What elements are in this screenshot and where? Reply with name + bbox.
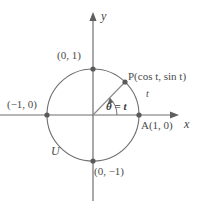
label-x-axis: x (184, 118, 189, 130)
label-angle-theta: θ = t (106, 101, 127, 112)
label-point-left: (−1, 0) (7, 99, 37, 110)
point-marker-top (90, 66, 95, 71)
label-point-a: A(1, 0) (141, 120, 173, 131)
point-marker-bottom (90, 158, 95, 163)
unit-circle-figure: P(cos t, sin t) A(1, 0) (0, 1) (0, −1) (… (0, 0, 198, 201)
point-marker-right (136, 112, 141, 117)
label-y-axis: y (101, 10, 106, 22)
point-marker-left (44, 112, 49, 117)
label-point-bottom: (0, −1) (94, 166, 124, 177)
label-circle-name: U (51, 145, 60, 157)
label-point-p: P(cos t, sin t) (128, 71, 186, 82)
point-marker-p (122, 79, 127, 84)
label-point-top: (0, 1) (57, 50, 81, 61)
x-axis (0, 111, 179, 118)
label-arc-length: t (146, 89, 149, 99)
